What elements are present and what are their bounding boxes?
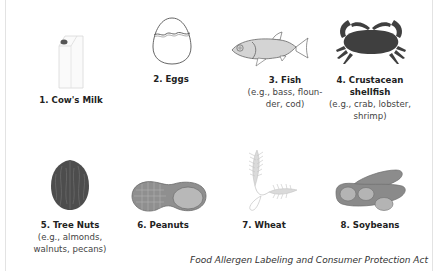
allergen-label-eggs: 2. Eggs [153, 73, 189, 85]
allergen-label-crustacean: 4. Crustacean shellfish (e.g., crab, lob… [329, 74, 411, 122]
left-border [5, 0, 6, 271]
allergen-examples: der, cod) [248, 98, 323, 110]
soybean-icon [334, 168, 408, 212]
allergen-name: 8. Soybeans [341, 219, 400, 231]
allergen-name: 7. Wheat [242, 219, 286, 231]
allergen-label-tree-nuts: 5. Tree Nuts (e.g., almonds, walnuts, pe… [34, 219, 107, 255]
walnut-icon [48, 158, 92, 212]
allergen-name: 6. Peanuts [137, 219, 189, 231]
wheat-icon [243, 148, 299, 212]
allergen-label-peanuts: 6. Peanuts [137, 219, 189, 231]
allergen-label-wheat: 7. Wheat [242, 219, 286, 231]
allergen-name: 4. Crustacean [329, 74, 411, 86]
peanut-icon [128, 176, 210, 216]
allergen-name: 2. Eggs [153, 73, 189, 85]
milk-carton-icon [56, 32, 86, 90]
egg-icon [151, 16, 193, 66]
allergen-examples: shrimp) [329, 110, 411, 122]
allergen-name: 1. Cow's Milk [39, 94, 102, 106]
allergen-label-soybeans: 8. Soybeans [341, 219, 400, 231]
allergen-examples: (e.g., bass, floun- [248, 86, 323, 98]
allergen-examples: (e.g., crab, lobster, [329, 98, 411, 110]
fish-icon [230, 28, 312, 70]
allergen-name: 3. Fish [248, 74, 323, 86]
right-border [432, 0, 433, 271]
allergen-label-milk: 1. Cow's Milk [39, 94, 102, 106]
allergen-label-fish: 3. Fish (e.g., bass, floun- der, cod) [248, 74, 323, 110]
allergen-name: 5. Tree Nuts [34, 219, 107, 231]
allergen-examples: (e.g., almonds, [34, 231, 107, 243]
allergen-name: shellfish [329, 86, 411, 98]
source-caption: Food Allergen Labeling and Consumer Prot… [190, 255, 428, 265]
crab-icon [334, 18, 408, 68]
allergen-examples: walnuts, pecans) [34, 243, 107, 255]
